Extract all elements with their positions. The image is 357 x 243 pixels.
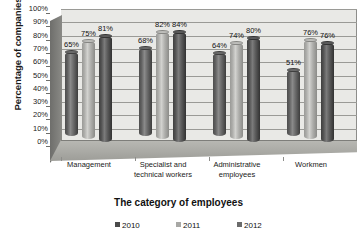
bar[interactable] <box>173 30 186 142</box>
y-axis-tick-mark <box>46 146 50 147</box>
bar-group: 64%74%80% <box>213 9 283 142</box>
y-axis-tick-mark <box>46 133 50 134</box>
bar-body <box>213 53 226 136</box>
y-axis-tick-label: 50% <box>18 71 48 81</box>
bar-body <box>173 32 186 142</box>
x-axis-category-label: Administrative employees <box>200 160 274 179</box>
bar-top-cap <box>321 41 334 45</box>
bar-body <box>321 43 334 142</box>
legend-swatch-icon <box>176 222 181 227</box>
bar-body <box>304 40 317 139</box>
bar-body <box>156 32 169 139</box>
bar[interactable] <box>213 51 226 136</box>
legend-item-2012[interactable]: 2012 <box>237 219 262 231</box>
x-axis-category-label: Workmen <box>274 160 348 170</box>
bar[interactable] <box>99 34 112 142</box>
plot-area: 65%75%81%68%82%84%64%74%80%51%76%76% <box>50 9 357 157</box>
y-axis-tick-label: 10% <box>18 124 48 134</box>
legend-item-2010[interactable]: 2010 <box>115 219 140 231</box>
y-axis-tick-label: 30% <box>18 97 48 107</box>
x-axis-category-label: Specialist and technical workers <box>126 160 200 179</box>
bar-top-cap <box>230 41 243 45</box>
y-axis-tick-mark <box>46 119 50 120</box>
y-axis-tick-label: 20% <box>18 110 48 120</box>
bar-top-cap <box>65 50 78 54</box>
bar-body <box>287 70 300 136</box>
bar-body <box>99 36 112 142</box>
bar[interactable] <box>321 41 334 142</box>
y-axis-tick-mark <box>46 66 50 67</box>
bar-top-cap <box>139 46 152 50</box>
bar-value-label: 76% <box>317 31 338 40</box>
bar-group: 51%76%76% <box>287 9 357 142</box>
bar-body <box>230 43 243 139</box>
legend-item-2011[interactable]: 2011 <box>176 219 200 231</box>
bar[interactable] <box>139 46 152 136</box>
legend-swatch-icon <box>237 222 242 227</box>
bar-value-label: 68% <box>135 36 156 45</box>
y-axis-tick-mark <box>46 106 50 107</box>
y-axis-tick-mark <box>46 93 50 94</box>
bar-value-label: 81% <box>95 24 116 33</box>
bar[interactable] <box>304 38 317 139</box>
bar-groups: 65%75%81%68%82%84%64%74%80%51%76%76% <box>61 9 357 142</box>
y-axis-tick-label: 60% <box>18 57 48 67</box>
bar[interactable] <box>247 36 260 142</box>
legend-swatch-icon <box>115 222 120 227</box>
bar[interactable] <box>230 41 243 139</box>
bar-value-label: 84% <box>169 20 190 29</box>
bar-top-cap <box>213 51 226 55</box>
legend-label: 2011 <box>183 221 200 230</box>
bar[interactable] <box>82 39 95 139</box>
y-axis-tick-mark <box>46 80 50 81</box>
bar-top-cap <box>156 30 169 34</box>
y-axis-tick-label: 0% <box>18 137 48 147</box>
bar-group: 68%82%84% <box>139 9 209 142</box>
x-axis-category-labels: ManagementSpecialist and technical worke… <box>50 160 357 198</box>
y-axis-tick-mark <box>46 13 50 14</box>
y-axis-tick-label: 80% <box>18 31 48 41</box>
bar-chart: Percentage of companies 0%10%20%30%40%50… <box>0 0 357 243</box>
y-axis-tick-label: 100% <box>18 4 48 14</box>
x-axis-category-label: Management <box>52 160 126 170</box>
y-axis-tick-label: 90% <box>18 17 48 27</box>
bar-top-cap <box>247 36 260 40</box>
bar-body <box>139 48 152 136</box>
bar-group: 65%75%81% <box>65 9 135 142</box>
y-axis-tick-labels: 0%10%20%30%40%50%60%70%80%90%100% <box>18 9 48 157</box>
bar[interactable] <box>287 68 300 136</box>
y-axis-tick-mark <box>46 53 50 54</box>
y-axis-tick-label: 40% <box>18 84 48 94</box>
bar-body <box>247 38 260 142</box>
bar[interactable] <box>65 50 78 136</box>
chart-legend: 201020112012 <box>0 219 357 233</box>
bar-body <box>82 41 95 139</box>
bar-value-label: 51% <box>283 58 304 67</box>
x-axis-title: The category of employees <box>0 197 357 208</box>
y-axis-tick-label: 70% <box>18 44 48 54</box>
bar-top-cap <box>304 38 317 42</box>
bar-value-label: 64% <box>209 41 230 50</box>
legend-label: 2012 <box>244 221 262 230</box>
bar-value-label: 80% <box>243 26 264 35</box>
bar-value-label: 65% <box>61 40 82 49</box>
bar[interactable] <box>156 30 169 139</box>
legend-label: 2010 <box>122 221 140 230</box>
y-axis-tick-mark <box>46 40 50 41</box>
bar-body <box>65 52 78 136</box>
y-axis-tick-mark <box>46 26 50 27</box>
